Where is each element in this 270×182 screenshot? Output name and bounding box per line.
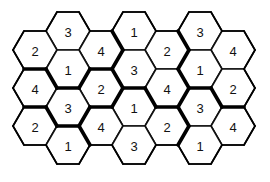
cell-number: 4: [97, 44, 104, 59]
cell-number: 3: [130, 63, 137, 78]
cell-number: 3: [64, 25, 71, 40]
cell-number: 3: [196, 25, 203, 40]
cell-number: 2: [31, 44, 38, 59]
cell-number: 3: [196, 101, 203, 116]
cell-number: 3: [130, 139, 137, 154]
cell-number: 1: [196, 63, 203, 78]
cell-number: 4: [229, 44, 236, 59]
cell-number: 4: [229, 120, 236, 135]
cell-number: 4: [31, 82, 38, 97]
cell-number: 1: [64, 63, 71, 78]
cell-number: 2: [163, 44, 170, 59]
cell-number: 2: [97, 82, 104, 97]
cell-number: 1: [130, 25, 137, 40]
cell-number: 2: [31, 120, 38, 135]
cell-number: 2: [229, 82, 236, 97]
cell-number: 1: [130, 101, 137, 116]
cell-number: 1: [64, 139, 71, 154]
cell-number: 2: [163, 120, 170, 135]
cell-number: 4: [97, 120, 104, 135]
hex-puzzle-board: 313242413142423132424131: [0, 0, 270, 182]
cell-number: 3: [64, 101, 71, 116]
cell-number: 1: [196, 139, 203, 154]
cell-number: 4: [163, 82, 170, 97]
